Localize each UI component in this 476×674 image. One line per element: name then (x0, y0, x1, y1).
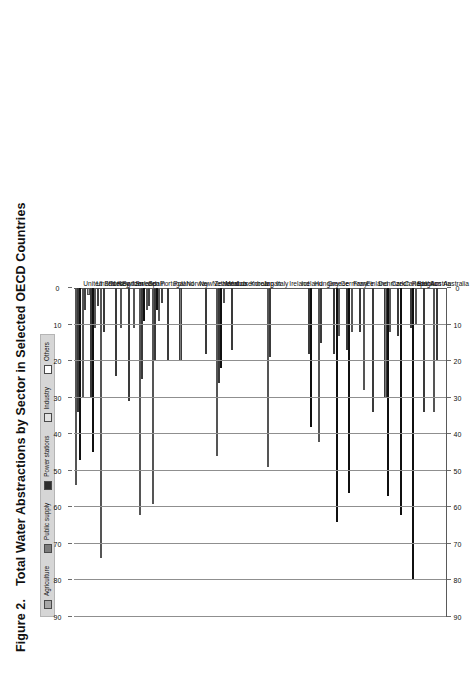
axis-tick-label: 20 (54, 358, 62, 365)
axis-tickmark (447, 324, 451, 325)
bar-group-row (356, 288, 369, 617)
legend-swatch-icon (44, 600, 52, 609)
gridline-50 (74, 470, 446, 471)
axis-tick-label: 70 (54, 540, 62, 547)
gridline-40 (74, 433, 446, 434)
bar-others (148, 288, 150, 306)
legend-item-label: Public supply (44, 503, 50, 540)
chart-legend: AgriculturePublic supplyPower stationsIn… (40, 334, 55, 617)
bar-group-row (241, 288, 254, 617)
axis-tickmark (447, 579, 451, 580)
legend-swatch-icon (44, 544, 52, 553)
legend-item-label: Power stations (44, 435, 50, 476)
axis-tick-label: 80 (454, 577, 462, 584)
axis-tickmark (447, 470, 451, 471)
category-label: Australia (443, 281, 469, 288)
bar-others (97, 288, 99, 306)
gridline-20 (74, 360, 446, 361)
axis-tick-label: 10 (454, 321, 462, 328)
gridline-60 (74, 506, 446, 507)
bar-industry (363, 288, 365, 390)
axis-tick-label: 50 (54, 467, 62, 474)
bar-group-row (420, 288, 433, 617)
legend-swatch-icon (44, 365, 52, 374)
axis-tick-label: 60 (54, 504, 62, 511)
bar-group-row (215, 288, 228, 617)
axis-tick-label: 20 (454, 358, 462, 365)
bar-group-row (382, 288, 395, 617)
bar-group-row (433, 288, 446, 617)
bar-others (84, 288, 86, 310)
bar-group-row (228, 288, 241, 617)
bar-industry (351, 288, 353, 332)
bar-group-row (87, 288, 100, 617)
axis-tickmark (68, 543, 72, 544)
bar-power-stations (400, 288, 402, 515)
axis-tick-label: 30 (454, 394, 462, 401)
bar-group-row (151, 288, 164, 617)
bar-power-stations (310, 288, 312, 427)
bar-group-row (369, 288, 382, 617)
bar-group-row (279, 288, 292, 617)
bar-group-row (266, 288, 279, 617)
category-axis-labels: United StatesUnited KingdomTurkeySwitzer… (74, 194, 446, 284)
category-label: Italy (276, 281, 288, 288)
bar-public-supply (115, 288, 117, 376)
bar-public-supply (205, 288, 207, 354)
bar-group-row (112, 288, 125, 617)
axis-tick-label: 30 (54, 394, 62, 401)
axis-tick-label: 70 (454, 540, 462, 547)
bar-group-row (330, 288, 343, 617)
legend-item-agriculture: Agriculture (44, 566, 52, 609)
figure: Figure 2. Total Water Abstractions by Se… (0, 0, 476, 674)
axis-tick-label: 40 (454, 431, 462, 438)
axis-tickmark (447, 360, 451, 361)
bar-public-supply (103, 288, 105, 332)
axis-tickmark (68, 433, 72, 434)
plot-inner (74, 288, 446, 617)
axis-tickmark (68, 579, 72, 580)
axis-tick-label: 0 (56, 285, 60, 292)
bar-group-row (292, 288, 305, 617)
legend-item-industry: Industry (44, 387, 52, 422)
axis-tickmark (68, 470, 72, 471)
axis-tick-label: 50 (454, 467, 462, 474)
gridline-30 (74, 397, 446, 398)
axis-tickmark (68, 506, 72, 507)
bar-industry (338, 288, 340, 336)
bar-group-row (189, 288, 202, 617)
page-title: Total Water Abstractions by Sector in Se… (14, 203, 28, 587)
legend-swatch-icon (44, 413, 52, 422)
rotated-figure-canvas: Figure 2. Total Water Abstractions by Se… (0, 0, 476, 674)
bar-public-supply (423, 288, 425, 412)
axis-tickmark (68, 397, 72, 398)
axis-tickmark (68, 616, 72, 617)
bar-group-row (202, 288, 215, 617)
bar-industry (223, 288, 225, 303)
bar-group-row (394, 288, 407, 617)
axis-tickmark (447, 543, 451, 544)
bar-industry (133, 288, 135, 328)
bar-group-row (253, 288, 266, 617)
legend-swatch-icon (44, 481, 52, 490)
axis-baseline (446, 288, 447, 617)
axis-ticks-top: 0102030405060708090 (56, 288, 70, 617)
bar-group-row (100, 288, 113, 617)
bar-group-row (317, 288, 330, 617)
legend-item-label: Agriculture (44, 566, 50, 596)
figure-title-row: Figure 2. Total Water Abstractions by Se… (14, 12, 28, 652)
bar-public-supply (372, 288, 374, 412)
bar-group-row (407, 288, 420, 617)
figure-number: Figure 2. (14, 599, 28, 652)
bar-public-supply (128, 288, 130, 401)
gridline-10 (74, 324, 446, 325)
axis-tick-label: 80 (54, 577, 62, 584)
axis-tickmark (447, 397, 451, 398)
legend-item-public-supply: Public supply (44, 503, 52, 553)
bar-group-row (164, 288, 177, 617)
legend-item-label: Others (44, 342, 50, 361)
bar-group-row (343, 288, 356, 617)
axis-ticks-bottom: 0102030405060708090 (450, 288, 464, 617)
bar-rows (74, 288, 446, 617)
bar-group-row (138, 288, 151, 617)
